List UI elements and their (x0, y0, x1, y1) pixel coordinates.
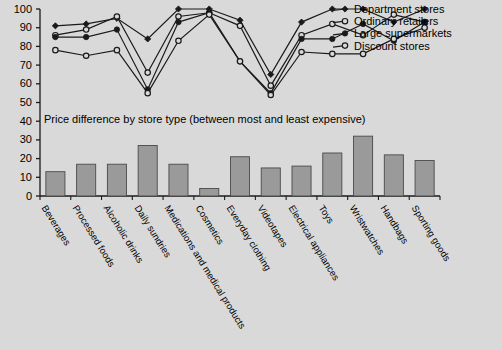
data-point-marker (330, 36, 335, 41)
data-point-marker (83, 34, 88, 39)
data-point-marker (298, 19, 304, 25)
legend-marker (342, 31, 347, 36)
bar-series (46, 136, 434, 196)
bar (107, 164, 126, 196)
plot-canvas (0, 0, 502, 350)
data-point-marker (114, 47, 119, 52)
bar (230, 157, 249, 196)
bar (138, 146, 157, 196)
legend-marker (342, 6, 348, 12)
data-point-marker (237, 59, 242, 64)
data-point-marker (53, 34, 58, 39)
data-point-marker (329, 6, 335, 12)
legend-label: Large supermarkets (354, 27, 452, 39)
data-point-marker (114, 27, 119, 32)
data-point-marker (268, 71, 274, 77)
data-point-marker (176, 38, 181, 43)
data-point-marker (176, 14, 181, 19)
bar (323, 153, 342, 196)
data-point-marker (114, 14, 119, 19)
data-point-marker (53, 47, 58, 52)
data-point-marker (237, 17, 243, 23)
bar (415, 160, 434, 196)
data-point-marker (207, 12, 212, 17)
data-point-marker (360, 51, 365, 56)
data-point-marker (83, 21, 89, 27)
bar (261, 168, 280, 196)
data-point-marker (299, 49, 304, 54)
data-point-marker (83, 53, 88, 58)
bar (292, 166, 311, 196)
bar (354, 136, 373, 196)
data-point-marker (145, 90, 150, 95)
bar (169, 164, 188, 196)
data-point-marker (268, 92, 273, 97)
data-point-marker (52, 23, 58, 29)
data-point-marker (268, 83, 273, 88)
legend-marker (342, 19, 347, 24)
data-point-marker (237, 23, 242, 28)
bar (384, 155, 403, 196)
legend-marker (342, 43, 347, 48)
legend-label: Ordinary retailers (354, 15, 438, 27)
data-point-marker (176, 19, 181, 24)
legend-label: Discount stores (354, 40, 430, 52)
chart-figure: 1009080706050403020100 Price difference … (0, 0, 502, 350)
bar (77, 164, 96, 196)
data-point-marker (145, 70, 150, 75)
bar (200, 189, 219, 196)
bar (46, 172, 65, 196)
bar-chart-title: Price difference by store type (between … (44, 113, 365, 125)
data-point-marker (299, 36, 304, 41)
data-point-marker (83, 27, 88, 32)
data-point-marker (330, 51, 335, 56)
legend-label: Department stores (354, 3, 444, 15)
